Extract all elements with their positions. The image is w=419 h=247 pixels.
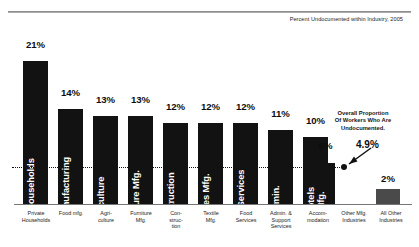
x-axis-label: Con- struc- tion: [158, 210, 194, 230]
bar-inline-label: Private Households: [25, 158, 36, 204]
bar-furniture-mfg[interactable]: Furniture Mfg.: [128, 116, 153, 204]
bar-inline-label: Construction: [165, 172, 176, 204]
overall-proportion-annotation: Overall Proportion Of Workers Who Are Un…: [311, 110, 415, 132]
bar-value-label: 11%: [268, 108, 293, 119]
bar-value-label: 12%: [198, 101, 223, 112]
bar-other-mfg-industries[interactable]: Mfg.: [316, 163, 335, 204]
bar-value-label: 13%: [128, 94, 153, 105]
bar-agriculture[interactable]: Agriculture: [93, 116, 118, 204]
x-axis-label: Other Mfg. Industries: [333, 210, 375, 223]
bar-inline-label: Food Services: [235, 169, 246, 203]
x-axis-label: Admin. & Support Services: [262, 210, 300, 230]
reference-line-4-9-percent: [12, 167, 346, 168]
bar-inline-label: Food Manufacturing: [60, 156, 71, 203]
x-axis-label: All Other Industries: [370, 210, 412, 223]
undocumented-workers-bar-chart: Percent Undocumented within Industry, 20…: [0, 0, 419, 247]
x-axis-label: Furniture Mfg.: [123, 210, 159, 223]
x-axis-label: Food mfg.: [53, 210, 89, 217]
bar-inline-label: Furniture Mfg.: [130, 170, 141, 204]
bar-construction[interactable]: Construction: [163, 123, 188, 204]
bar-value-label: 13%: [93, 94, 118, 105]
bar-value-label: 21%: [23, 39, 48, 50]
bar-food-mfg[interactable]: Food Manufacturing: [58, 109, 83, 204]
x-axis-label: Agri- culture: [88, 210, 124, 223]
bar-value-label: 2%: [376, 173, 400, 184]
x-axis-label: Accom- modation: [299, 210, 337, 223]
bar-food-services[interactable]: Food Services: [233, 123, 258, 204]
bar-all-other-industries[interactable]: [376, 189, 400, 204]
bar-inline-label: Admin.: [270, 185, 281, 204]
bar-value-label: 14%: [58, 87, 83, 98]
x-axis-line: [14, 204, 412, 205]
x-axis-label: Textile Mfg.: [193, 210, 229, 223]
bar-inline-label: Textiles Mfg.: [200, 173, 211, 203]
bar-inline-label: Agriculture: [95, 176, 106, 203]
x-axis-label: Food Services: [228, 210, 264, 223]
plot-area: Private Households 21% Food Manufacturin…: [0, 0, 419, 247]
bar-value-label: 6%: [315, 140, 336, 151]
x-axis-label: Private Households: [14, 210, 58, 223]
bar-value-label: 12%: [233, 101, 258, 112]
bar-inline-label: Mfg.: [316, 191, 326, 203]
annotation-arrow-icon: [340, 146, 376, 170]
bar-private-households[interactable]: Private Households: [23, 61, 48, 204]
bar-textile-mfg[interactable]: Textiles Mfg.: [198, 123, 223, 204]
bar-inline-label: Hotels: [305, 186, 316, 203]
bar-value-label: 12%: [163, 101, 188, 112]
